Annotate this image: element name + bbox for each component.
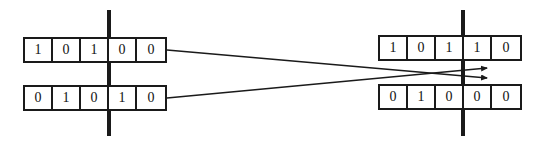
gene-cell: 1 [436,37,464,59]
gene-cell: 0 [137,39,165,61]
gene-cell: 1 [380,37,408,59]
gene-cell: 0 [436,86,464,108]
gene-cell: 0 [25,87,53,109]
parent-chromosome-a: 1 0 1 0 0 [23,37,167,63]
gene-cell: 1 [464,37,492,59]
crossover-point-marker-right [461,10,465,136]
gene-cell: 1 [25,39,53,61]
gene-cell: 0 [464,86,492,108]
gene-cell: 0 [492,86,520,108]
crossover-point-marker-left [107,10,111,136]
parent-chromosome-b: 0 1 0 1 0 [23,85,167,111]
gene-cell: 0 [53,39,81,61]
gene-cell: 0 [109,39,137,61]
gene-cell: 1 [81,39,109,61]
gene-cell: 1 [408,86,436,108]
gene-cell: 0 [81,87,109,109]
gene-cell: 0 [380,86,408,108]
offspring-chromosome-a: 1 0 1 1 0 [378,35,522,61]
gene-cell: 1 [53,87,81,109]
crossover-diagram: 1 0 1 0 0 0 1 0 1 0 1 0 1 1 0 0 1 0 0 0 [0,0,543,147]
gene-cell: 0 [408,37,436,59]
gene-cell: 1 [109,87,137,109]
gene-cell: 0 [137,87,165,109]
offspring-chromosome-b: 0 1 0 0 0 [378,84,522,110]
gene-cell: 0 [492,37,520,59]
